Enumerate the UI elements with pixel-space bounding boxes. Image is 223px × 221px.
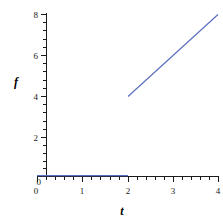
y-tick-label-4: 4 bbox=[34, 92, 39, 102]
plot-area: 8 6 4 2 0 bbox=[0, 0, 223, 221]
y-tick-label-8: 8 bbox=[34, 10, 39, 20]
x-tick-label-1: 1 bbox=[80, 186, 85, 196]
x-tick-label-0: 0 bbox=[34, 186, 39, 196]
x-tick-label-3: 3 bbox=[171, 186, 176, 196]
y-tick-label-2: 2 bbox=[34, 133, 39, 143]
y-tick-label-6: 6 bbox=[34, 51, 39, 61]
x-tick-label-4: 4 bbox=[216, 186, 221, 196]
chart-figure: 8 6 4 2 0 bbox=[0, 0, 223, 221]
x-tick-label-2: 2 bbox=[126, 186, 131, 196]
